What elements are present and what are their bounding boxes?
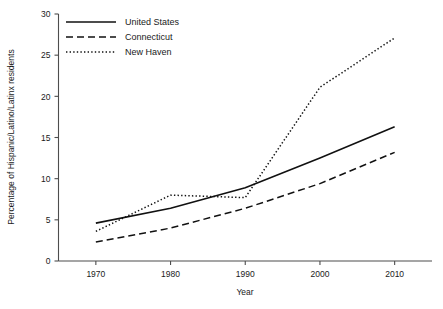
line-chart: 051015202530 19701980199020002010 Percen…	[0, 0, 443, 309]
y-tick-label: 25	[41, 50, 51, 60]
chart-legend: United StatesConnecticutNew Haven	[66, 17, 180, 57]
y-tick-label: 30	[41, 9, 51, 19]
chart-container: 051015202530 19701980199020002010 Percen…	[0, 0, 443, 309]
y-tick-label: 15	[41, 133, 51, 143]
series-group	[96, 38, 395, 242]
x-tick-label: 2000	[310, 269, 329, 279]
legend-label-connecticut: Connecticut	[125, 32, 173, 42]
x-tick-label: 1990	[236, 269, 255, 279]
x-tick-label: 2010	[385, 269, 404, 279]
y-tick-label: 10	[41, 174, 51, 184]
legend-label-new-haven: New Haven	[125, 47, 172, 57]
series-line-united-states	[96, 127, 395, 223]
series-line-new-haven	[96, 38, 395, 231]
legend-label-united-states: United States	[125, 17, 180, 27]
series-line-connecticut	[96, 152, 395, 242]
y-tick-label: 20	[41, 92, 51, 102]
x-axis-title: Year	[236, 287, 253, 297]
y-axis-ticks: 051015202530	[41, 9, 58, 266]
x-axis-ticks: 19701980199020002010	[86, 261, 404, 279]
y-tick-label: 0	[46, 256, 51, 266]
x-tick-label: 1980	[161, 269, 180, 279]
x-tick-label: 1970	[86, 269, 105, 279]
y-tick-label: 5	[46, 215, 51, 225]
y-axis-title: Percentage of Hispanic/Latino/Latinx res…	[6, 49, 16, 224]
